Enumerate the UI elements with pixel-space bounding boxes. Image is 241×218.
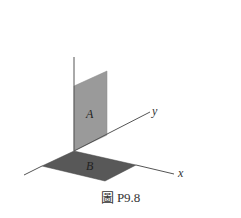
y-axis-label: y [151,104,158,118]
y-axis-negative [24,166,42,175]
panel-b-label: B [86,159,94,173]
x-axis [136,165,174,174]
panel-a-label: A [85,107,94,121]
figure-caption: 圖 P9.8 [0,187,241,206]
x-axis-label: x [177,166,184,180]
3d-axes-diagram: A B y x [0,0,241,218]
